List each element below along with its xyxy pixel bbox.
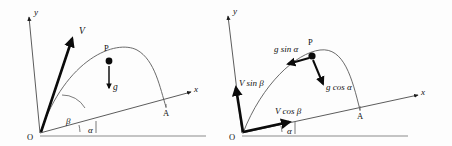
y-axis-label-left: y	[33, 7, 38, 17]
label-g-sin-alpha: g sin α	[274, 44, 299, 54]
x-axis-label-left: x	[193, 84, 198, 94]
gravity-vector-label-g: g	[113, 82, 118, 92]
beta-angle-label: β	[65, 116, 71, 126]
alpha-angle-label-right: α	[287, 126, 292, 136]
beta-angle-arc	[62, 95, 85, 108]
velocity-vector-label-V: V	[79, 26, 86, 36]
left-panel: y x V P g A O β α	[27, 7, 206, 142]
point-a-label-left: A	[163, 108, 170, 118]
vector-v-sin-beta	[236, 88, 243, 132]
diagram-canvas: y x V P g A O β α	[0, 0, 452, 146]
point-a-label-right: A	[357, 111, 364, 121]
origin-label-right: O	[229, 132, 235, 142]
point-p-label-left: P	[104, 43, 109, 53]
point-p-dot-right	[308, 52, 315, 59]
label-v-sin-beta: V sin β	[239, 78, 264, 88]
vector-g-cos-alpha	[313, 60, 323, 84]
label-g-cos-alpha: g cos α	[326, 82, 352, 92]
point-p-dot-left	[106, 58, 113, 65]
alpha-angle-arc-right	[281, 126, 282, 132]
alpha-angle-arc-left	[79, 125, 80, 132]
right-panel: y x V sin β V cos β g sin α g cos α P A …	[228, 6, 425, 142]
alpha-angle-label-left: α	[88, 125, 93, 135]
trajectory-curve-left	[40, 47, 166, 133]
y-axis-left	[29, 17, 40, 133]
projectile-diagram-figure: y x V P g A O β α	[0, 0, 452, 146]
y-axis-label-right: y	[232, 6, 237, 16]
label-v-cos-beta: V cos β	[275, 106, 302, 116]
origin-label-left: O	[27, 132, 33, 142]
x-axis-label-right: x	[420, 87, 425, 97]
point-p-label-right: P	[308, 37, 313, 47]
